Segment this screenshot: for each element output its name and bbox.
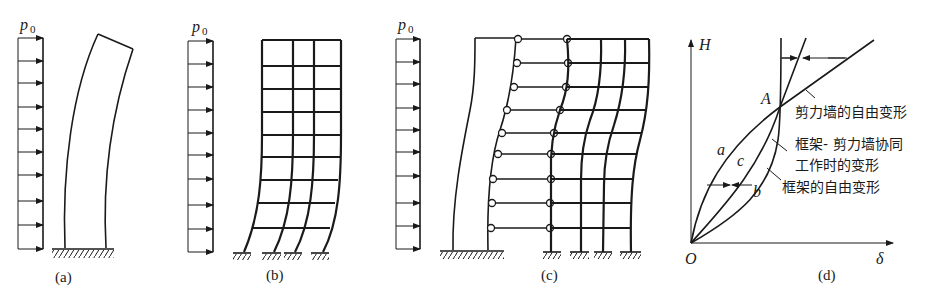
- annotation-wall-free: 剪力墙的自由变形: [795, 104, 907, 120]
- frame-c: [551, 39, 650, 252]
- load-subscript: 0: [202, 25, 208, 37]
- frame-b: [244, 40, 341, 252]
- load-subscript: 0: [408, 23, 414, 35]
- caption-d: (d): [818, 267, 836, 284]
- curve-label-b: b: [753, 183, 761, 200]
- h-axis-label: H: [698, 36, 712, 53]
- load-arrows: [396, 39, 420, 249]
- delta-axis-label: δ: [876, 250, 884, 267]
- load-label: p: [191, 18, 200, 36]
- panel-c: p 0: [396, 16, 650, 284]
- caption-b: (b): [266, 267, 284, 284]
- point-a-label: A: [760, 90, 771, 107]
- load-label: p: [19, 16, 28, 34]
- curve-label-a: a: [717, 141, 725, 158]
- ground-support-wall-c: [440, 251, 504, 259]
- structural-deformation-figure: p 0 (a): [0, 0, 944, 298]
- load-arrows: [188, 41, 213, 252]
- annotation-combined-2: 工作时的变形: [795, 157, 879, 173]
- ground-support-a: [52, 249, 114, 258]
- load-diagram-c: p 0: [396, 16, 420, 249]
- load-diagram-a: p 0: [18, 16, 43, 249]
- panel-a: p 0 (a): [18, 16, 133, 286]
- load-label: p: [397, 16, 406, 34]
- annotation-frame-free: 框架的自由变形: [782, 179, 880, 195]
- shear-wall-c: [453, 38, 516, 250]
- annotation-combined-1: 框架- 剪力墙协同: [795, 136, 903, 152]
- load-subscript: 0: [30, 23, 36, 35]
- origin-label: O: [685, 250, 697, 267]
- caption-a: (a): [55, 269, 72, 286]
- load-arrows: [18, 38, 43, 249]
- panel-b: p 0: [188, 18, 341, 284]
- shear-wall-a: [64, 34, 133, 248]
- ground-supports-b: [233, 253, 329, 260]
- load-diagram-b: p 0: [188, 18, 213, 252]
- curve-c-combined: [691, 38, 806, 243]
- caption-c: (c): [541, 267, 558, 284]
- panel-d-graph: H δ O A a c b 剪力墙的自由变形 框架- 剪力墙协同 工作时的变形 …: [685, 36, 907, 284]
- ground-supports-frame-c: [543, 252, 641, 259]
- curve-label-c: c: [737, 152, 744, 169]
